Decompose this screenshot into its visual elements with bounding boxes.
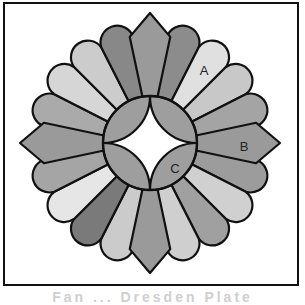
center-circle-group [103,96,197,190]
label-a: A [200,63,209,78]
label-c: C [170,161,179,176]
label-b: B [240,139,249,154]
caption: Fan ... Dresden Plate [0,289,305,305]
